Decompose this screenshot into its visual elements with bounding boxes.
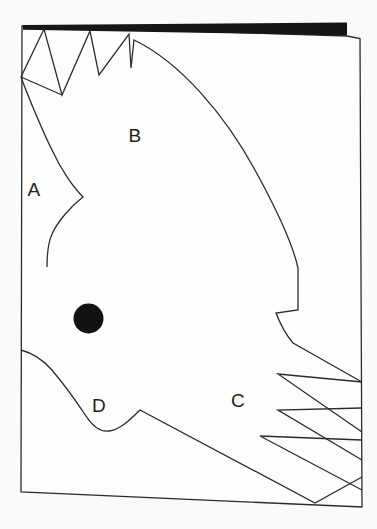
region-label-b: B (128, 126, 141, 145)
region-label-c: C (231, 391, 245, 410)
region-label-d: D (92, 396, 106, 415)
bird-cutout-diagram (0, 0, 377, 529)
scanned-page: A B C D (0, 0, 377, 529)
region-label-a: A (27, 180, 40, 199)
bird-eye-dot (74, 304, 104, 334)
page-outline (21, 26, 362, 507)
